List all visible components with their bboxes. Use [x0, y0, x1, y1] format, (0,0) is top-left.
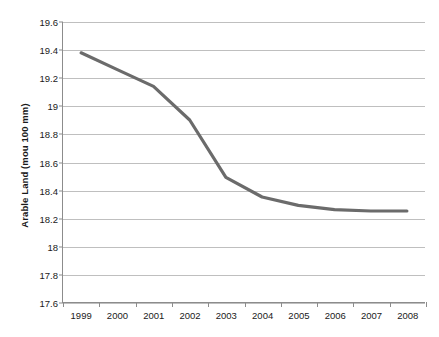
- y-tick-label: 19.6: [40, 17, 59, 28]
- x-tick-label: 2003: [216, 310, 237, 321]
- x-tick-label: 1999: [71, 310, 92, 321]
- y-axis-title: Arable Land (mou 100 mm): [19, 46, 30, 286]
- y-tick-label: 19.2: [40, 73, 59, 84]
- x-tick-mark: [63, 302, 64, 307]
- x-tick-mark: [390, 302, 391, 307]
- x-tick-mark: [136, 302, 137, 307]
- x-tick-label: 2000: [107, 310, 128, 321]
- x-tick-label: 2007: [361, 310, 382, 321]
- x-tick-label: 2001: [143, 310, 164, 321]
- y-tick-label: 17.8: [40, 269, 59, 280]
- x-tick-mark: [172, 302, 173, 307]
- x-tick-label: 2004: [252, 310, 273, 321]
- y-tick-label: 19.4: [40, 45, 59, 56]
- series-line-arable-land: [81, 53, 407, 211]
- y-tick-label: 17.6: [40, 298, 59, 309]
- line-chart: Arable Land (mou 100 mm) 19.619.419.2191…: [0, 0, 439, 337]
- x-tick-label: 2008: [397, 310, 418, 321]
- y-tick-label: 18.4: [40, 185, 59, 196]
- x-tick-mark: [317, 302, 318, 307]
- x-tick-mark: [99, 302, 100, 307]
- x-tick-mark: [426, 302, 427, 307]
- y-tick-label: 18.2: [40, 213, 59, 224]
- data-series-layer: [63, 22, 425, 302]
- x-tick-mark: [353, 302, 354, 307]
- y-tick-label: 19: [47, 101, 58, 112]
- y-tick-label: 18.8: [40, 129, 59, 140]
- x-tick-label: 2002: [179, 310, 200, 321]
- x-tick-label: 2006: [325, 310, 346, 321]
- plot-area: 19.619.419.21918.818.618.418.21817.817.6…: [62, 22, 425, 303]
- x-tick-mark: [208, 302, 209, 307]
- x-tick-label: 2005: [288, 310, 309, 321]
- x-tick-mark: [245, 302, 246, 307]
- y-tick-label: 18: [47, 241, 58, 252]
- x-tick-mark: [281, 302, 282, 307]
- y-tick-label: 18.6: [40, 157, 59, 168]
